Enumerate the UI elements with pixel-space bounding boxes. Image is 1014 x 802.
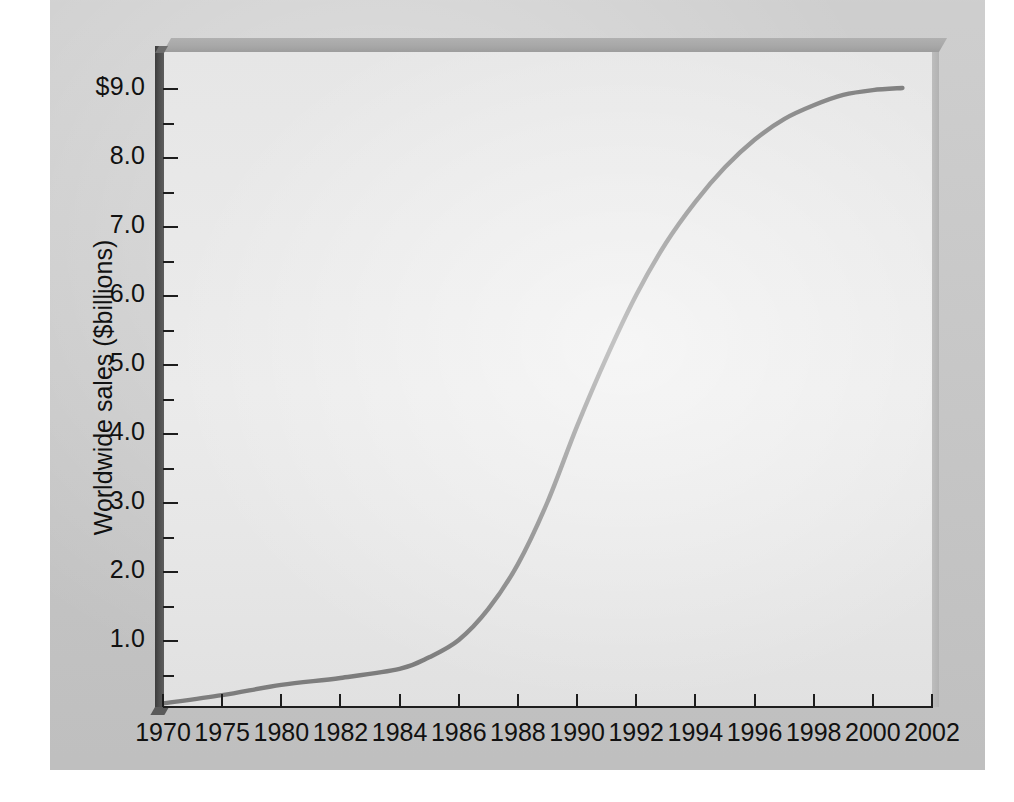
y-tick-major xyxy=(163,88,178,90)
x-tick xyxy=(458,694,460,707)
x-tick xyxy=(517,694,519,707)
x-tick xyxy=(813,694,815,707)
y-tick-label: $9.0 xyxy=(25,72,145,101)
y-tick-label: 5.0 xyxy=(25,348,145,377)
y-tick-minor xyxy=(163,330,174,332)
y-tick-minor xyxy=(163,606,174,608)
x-tick xyxy=(280,694,282,707)
y-axis-wall xyxy=(155,46,164,715)
y-tick-major xyxy=(163,295,178,297)
y-tick-label: 7.0 xyxy=(25,210,145,239)
x-tick xyxy=(576,694,578,707)
x-tick xyxy=(221,694,223,707)
y-tick-label: 6.0 xyxy=(25,279,145,308)
y-tick-major xyxy=(163,226,178,228)
y-tick-minor xyxy=(163,537,174,539)
y-tick-minor xyxy=(163,675,174,677)
y-tick-major xyxy=(163,433,178,435)
y-tick-major xyxy=(163,157,178,159)
x-tick xyxy=(162,694,164,707)
plot-right-bevel xyxy=(932,52,939,707)
x-axis-line xyxy=(163,706,933,708)
y-tick-label: 1.0 xyxy=(25,624,145,653)
y-tick-minor xyxy=(163,468,174,470)
y-tick-label: 4.0 xyxy=(25,417,145,446)
y-tick-major xyxy=(163,502,178,504)
x-tick xyxy=(872,694,874,707)
x-tick-label: 2002 xyxy=(897,718,967,747)
plot-area xyxy=(163,52,932,707)
y-tick-minor xyxy=(163,192,174,194)
x-tick xyxy=(399,694,401,707)
y-tick-minor xyxy=(163,261,174,263)
y-axis-title: Worldwide sales ($billions) xyxy=(89,223,118,553)
y-tick-major xyxy=(163,364,178,366)
y-tick-label: 2.0 xyxy=(25,555,145,584)
plot-top-bevel xyxy=(163,38,947,52)
y-tick-label: 8.0 xyxy=(25,141,145,170)
y-tick-minor xyxy=(163,123,174,125)
y-tick-major xyxy=(163,571,178,573)
x-tick xyxy=(635,694,637,707)
x-tick xyxy=(339,694,341,707)
x-tick xyxy=(931,694,933,707)
x-tick xyxy=(694,694,696,707)
x-tick xyxy=(754,694,756,707)
sales-curve xyxy=(163,52,932,707)
y-tick-minor xyxy=(163,399,174,401)
plot-3d-block xyxy=(155,38,939,710)
chart-screenshot: $9.08.07.06.05.04.03.02.01.0 19701975198… xyxy=(0,0,1014,802)
y-tick-major xyxy=(163,640,178,642)
y-tick-label: 3.0 xyxy=(25,486,145,515)
